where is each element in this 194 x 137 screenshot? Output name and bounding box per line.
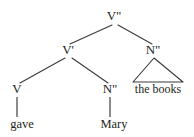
node-v-bar: V' [62, 43, 74, 56]
edge-vmax-vbar [70, 25, 112, 44]
leaf-the-books: the books [135, 83, 181, 95]
node-n-double-prime-right: N" [146, 43, 161, 56]
node-v-head: V [12, 82, 21, 95]
edge-triangle-the-books [133, 58, 183, 82]
node-n-double-prime-object: N" [103, 82, 118, 95]
leaf-gave: gave [10, 118, 34, 131]
edge-vbar-nmax-obj [72, 58, 108, 83]
edge-vbar-v [20, 58, 65, 83]
syntax-tree-diagram: V" V' N" V N" gave Mary the books [0, 0, 194, 137]
leaf-mary: Mary [100, 118, 127, 131]
node-v-double-prime-root: V" [107, 9, 122, 22]
